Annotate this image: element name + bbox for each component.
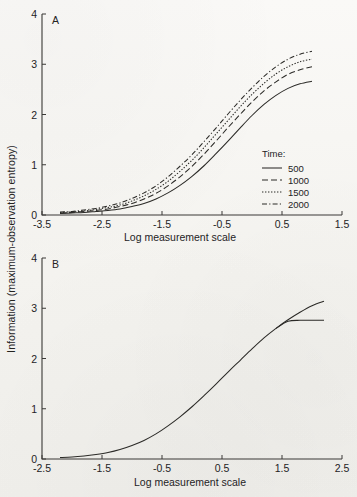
panel-b: 0 1 2 3 4 -2.5 -1.5 -0.5 0.5 1.5 2.5 — [31, 252, 349, 488]
panel-b-y-ticks — [42, 258, 46, 459]
panel-a-ytick-2: 2 — [31, 109, 37, 121]
panel-a-y-ticks — [42, 14, 46, 215]
panel-b-axes — [42, 258, 342, 459]
panel-a-xtick-5: 1.5 — [335, 218, 350, 230]
panel-a-ytick-3: 3 — [31, 58, 37, 70]
panel-b-x-axis-title: Log measurement scale — [134, 476, 246, 488]
figure-page: Information (maximum-observation entropy… — [0, 0, 357, 497]
panel-a-xtick-0: -3.5 — [33, 218, 51, 230]
panel-b-ytick-1: 1 — [31, 403, 37, 415]
curve-a-1000 — [60, 67, 312, 213]
panel-b-xtick-4: 1.5 — [275, 462, 290, 474]
curve-b-branch-500 — [276, 320, 324, 328]
panel-b-xtick-1: -1.5 — [93, 462, 111, 474]
panel-b-label: B — [52, 258, 59, 270]
panel-b-xtick-2: -0.5 — [153, 462, 171, 474]
panel-b-curves — [60, 301, 324, 457]
panel-a-ytick-1: 1 — [31, 159, 37, 171]
panel-a-ytick-4: 4 — [31, 8, 37, 20]
curve-b-collapsed — [60, 301, 324, 457]
panel-a-legend: Time: 500 1000 1500 2000 — [262, 148, 309, 210]
legend-label-500: 500 — [288, 163, 304, 174]
panel-b-xtick-3: 0.5 — [215, 462, 230, 474]
panel-b-xtick-5: 2.5 — [335, 462, 350, 474]
panel-a-x-tick-labels: -3.5 -2.5 -1.5 -0.5 0.5 1.5 — [33, 218, 349, 230]
panel-a-xtick-3: -0.5 — [213, 218, 231, 230]
panel-a-x-axis-title: Log measurement scale — [124, 231, 236, 243]
panel-b-y-tick-labels: 0 1 2 3 4 — [31, 252, 37, 465]
panel-b-ytick-3: 3 — [31, 302, 37, 314]
legend-title: Time: — [262, 148, 285, 159]
panel-b-x-tick-labels: -2.5 -1.5 -0.5 0.5 1.5 2.5 — [33, 462, 349, 474]
legend-label-1500: 1500 — [288, 187, 309, 198]
panel-b-xtick-0: -2.5 — [33, 462, 51, 474]
figure-canvas: 0 1 2 3 4 -3.5 -2.5 -1.5 -0.5 0.5 — [0, 0, 357, 497]
panel-a-curves — [60, 51, 312, 213]
panel-a-xtick-2: -1.5 — [153, 218, 171, 230]
legend-label-1000: 1000 — [288, 175, 309, 186]
curve-a-1500 — [60, 59, 312, 212]
panel-a: 0 1 2 3 4 -3.5 -2.5 -1.5 -0.5 0.5 — [31, 8, 349, 243]
panel-a-y-tick-labels: 0 1 2 3 4 — [31, 8, 37, 221]
legend-label-2000: 2000 — [288, 199, 309, 210]
panel-a-xtick-4: 0.5 — [275, 218, 290, 230]
panel-b-ytick-4: 4 — [31, 252, 37, 264]
panel-a-label: A — [52, 14, 59, 26]
panel-a-xtick-1: -2.5 — [93, 218, 111, 230]
panel-b-ytick-2: 2 — [31, 353, 37, 365]
